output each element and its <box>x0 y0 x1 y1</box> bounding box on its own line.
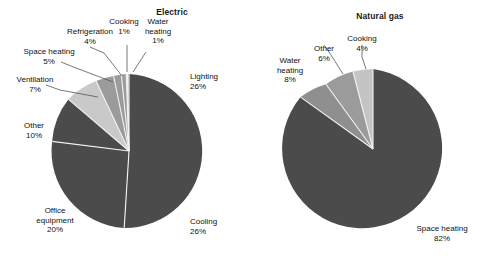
label-water-heating-name-1: Water <box>137 17 179 27</box>
label-office-equipment-name-1: Office <box>22 206 88 216</box>
label-other-name: Other <box>12 121 56 131</box>
chart-title-natural-gas: Natural gas <box>345 11 415 21</box>
label-lighting: Lighting 26% <box>190 72 240 91</box>
label-gas-water-heating: Water heating 8% <box>268 56 312 85</box>
label-office-equipment: Office equipment 20% <box>22 206 88 235</box>
pie-chart-figure: Electric Natural gas Refrigeration 4% Co… <box>0 0 482 261</box>
label-gas-water-heating-name-2: heating <box>268 66 312 76</box>
label-space-heating-name: Space heating <box>13 47 85 57</box>
label-lighting-pct: 26% <box>190 82 240 92</box>
label-ventilation: Ventilation 7% <box>6 75 64 94</box>
label-gas-cooking: Cooking 4% <box>340 34 384 53</box>
chart-title-electric: Electric <box>142 7 202 17</box>
leader-water-heating <box>133 52 146 72</box>
label-gas-cooking-name: Cooking <box>340 34 384 44</box>
label-cooling-pct: 26% <box>190 227 240 237</box>
label-gas-water-heating-pct: 8% <box>268 75 312 85</box>
label-other-pct: 10% <box>12 131 56 141</box>
label-office-equipment-name-2: equipment <box>22 216 88 226</box>
label-office-equipment-pct: 20% <box>22 225 88 235</box>
label-space-heating: Space heating 5% <box>13 47 85 66</box>
label-cooling-name: Cooling <box>190 217 240 227</box>
label-other: Other 10% <box>12 121 56 140</box>
label-gas-other-name: Other <box>305 44 343 54</box>
label-water-heating: Water heating 1% <box>137 17 179 46</box>
label-refrigeration-pct: 4% <box>48 37 132 47</box>
label-ventilation-name: Ventilation <box>6 75 64 85</box>
pie-electric <box>51 74 202 228</box>
pie-natural-gas <box>282 69 442 228</box>
leader-refrigeration <box>90 47 122 76</box>
label-gas-space-heating-name: Space heating <box>406 224 478 234</box>
label-water-heating-pct: 1% <box>137 36 179 46</box>
label-cooling: Cooling 26% <box>190 217 240 236</box>
label-gas-cooking-pct: 4% <box>340 44 384 54</box>
label-lighting-name: Lighting <box>190 72 240 82</box>
slice-lighting <box>124 74 202 228</box>
label-gas-water-heating-name-1: Water <box>268 56 312 66</box>
label-gas-space-heating: Space heating 82% <box>406 224 478 243</box>
label-space-heating-pct: 5% <box>13 57 85 67</box>
label-ventilation-pct: 7% <box>6 85 64 95</box>
label-gas-space-heating-pct: 82% <box>406 234 478 244</box>
label-water-heating-name-2: heating <box>137 27 179 37</box>
